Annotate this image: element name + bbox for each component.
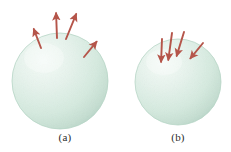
panel-a-caption: (a): [45, 131, 85, 143]
panel-b-caption: (b): [158, 131, 198, 143]
figure-canvas: [0, 0, 231, 152]
physics-figure-two-spheres: (a) (b): [0, 0, 231, 152]
panel-a: [12, 13, 108, 129]
arrow-outward-2: [56, 13, 57, 38]
arrow-inward-3: [161, 39, 162, 62]
sphere-outward: [12, 33, 108, 129]
panel-b: [135, 32, 221, 125]
sphere-outward-body: [12, 33, 108, 129]
sphere-outward-highlight: [24, 43, 64, 73]
